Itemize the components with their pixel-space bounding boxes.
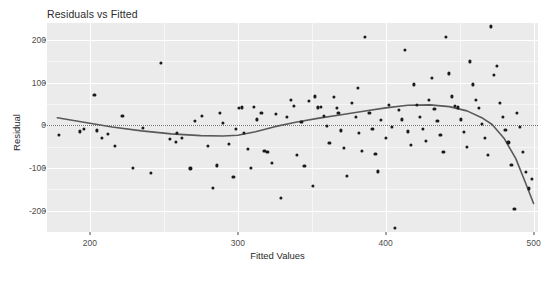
x-axis-tick-label: 200 [83, 238, 97, 248]
x-axis-tick-mark [89, 232, 90, 235]
x-axis-tick-label: 400 [379, 238, 393, 248]
y-axis-tick-mark [43, 82, 46, 83]
x-axis-label: Fitted Values [0, 250, 555, 261]
x-axis-tick-mark [533, 232, 534, 235]
loess-smooth-curve [47, 23, 538, 232]
plot-panel [47, 23, 538, 232]
y-axis-tick-mark [43, 210, 46, 211]
y-axis-label: Residual [11, 93, 22, 173]
x-axis-tick-mark [385, 232, 386, 235]
page-title: Residuals vs Fitted [47, 8, 138, 20]
x-axis-tick-label: 500 [526, 238, 540, 248]
x-axis-tick-label: 300 [231, 238, 245, 248]
x-axis-tick-mark [237, 232, 238, 235]
y-axis-tick-mark [43, 40, 46, 41]
residuals-vs-fitted-chart: Residuals vs Fitted 2001000-100-200 2003… [0, 0, 555, 283]
y-axis-tick-mark [43, 168, 46, 169]
y-axis-tick-mark [43, 125, 46, 126]
